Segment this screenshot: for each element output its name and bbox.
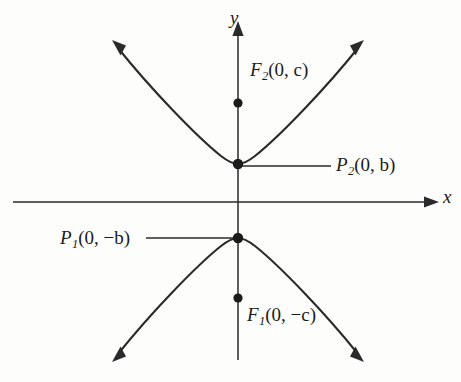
lower-right-branch-arrowhead-icon bbox=[350, 347, 364, 363]
lower-left-branch-arrowhead-icon bbox=[112, 347, 126, 363]
upper-left-branch-arrowhead-icon bbox=[112, 40, 126, 56]
vertex-upper-label-name: P bbox=[336, 154, 348, 175]
focus-lower-label-coords: (0, −c) bbox=[265, 304, 316, 325]
vertex-upper-label: P2(0, b) bbox=[336, 155, 395, 177]
focus-upper-label-coords: (0, c) bbox=[268, 59, 308, 80]
x-axis-arrowhead-icon bbox=[424, 196, 439, 207]
vertex-upper-label-coords: (0, b) bbox=[354, 154, 395, 175]
focus-upper-label: F2(0, c) bbox=[250, 60, 308, 82]
focus-lower-point bbox=[233, 293, 242, 302]
focus-lower-label: F1(0, −c) bbox=[247, 305, 316, 327]
focus-lower-label-name: F bbox=[247, 304, 259, 325]
hyperbola-diagram-svg bbox=[0, 0, 461, 382]
vertex-lower-label: P1(0, −b) bbox=[60, 228, 130, 250]
vertex-lower-label-name: P bbox=[60, 227, 72, 248]
vertex-upper-point bbox=[233, 159, 243, 169]
vertex-lower-point bbox=[233, 233, 243, 243]
focus-upper-label-name: F bbox=[250, 59, 262, 80]
focus-upper-point bbox=[233, 98, 242, 107]
y-axis-label: y bbox=[230, 8, 238, 27]
upper-right-branch-arrowhead-icon bbox=[350, 40, 364, 56]
x-axis-label: x bbox=[443, 187, 451, 206]
hyperbola-figure: y x F2(0, c) P2(0, b) P1(0, −b) F1(0, −c… bbox=[0, 0, 461, 382]
vertex-lower-label-coords: (0, −b) bbox=[78, 227, 130, 248]
